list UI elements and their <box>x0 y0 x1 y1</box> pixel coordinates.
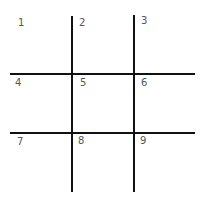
horizontal-line-1 <box>10 73 195 75</box>
tic-tac-toe-grid: 1 2 3 4 5 6 7 8 9 <box>0 0 205 205</box>
horizontal-line-2 <box>10 132 195 134</box>
cell-label-2: 2 <box>79 18 85 28</box>
cell-label-6: 6 <box>141 78 147 88</box>
cell-label-8: 8 <box>78 136 84 146</box>
cell-label-1: 1 <box>18 18 24 28</box>
vertical-line-1 <box>71 16 73 192</box>
cell-label-3: 3 <box>141 16 147 26</box>
cell-label-7: 7 <box>17 137 23 147</box>
vertical-line-2 <box>133 15 135 192</box>
cell-label-5: 5 <box>80 78 86 88</box>
cell-label-4: 4 <box>15 78 21 88</box>
cell-label-9: 9 <box>140 136 146 146</box>
